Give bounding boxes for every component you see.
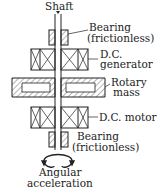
bottom-bearing-label-line1: Bearing	[77, 131, 119, 141]
angular-label-line2: acceleration	[27, 178, 93, 188]
rotary-mass	[12, 78, 110, 97]
top-bearing-label-line2: (frictionless)	[87, 33, 154, 43]
bottom-bearing-label-line2: (frictionless)	[72, 142, 139, 152]
angular-label-line1: Angular	[39, 167, 81, 177]
dc-motor	[31, 107, 98, 128]
shaft-label: Shaft	[45, 1, 73, 11]
bottom-bearing	[49, 132, 68, 147]
flywheel-system-diagram: Shaft Bearing (frictionless) D.C. genera…	[0, 0, 165, 193]
dc-generator	[31, 49, 98, 70]
motor-label: D.C. motor	[99, 112, 157, 122]
top-bearing-label-line1: Bearing	[89, 22, 131, 32]
top-bearing	[49, 30, 88, 45]
shaft	[55, 11, 61, 150]
generator-label-line2: generator	[100, 59, 153, 69]
diagram-drawing	[0, 0, 165, 193]
rotary-mass-label-line2: mass	[113, 87, 140, 97]
